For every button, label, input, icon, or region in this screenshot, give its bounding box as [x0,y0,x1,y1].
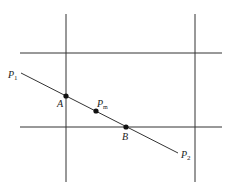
clipping-diagram: P1 A Pm B P2 [0,0,233,194]
label-p2: P2 [180,149,191,162]
label-p1: P1 [7,69,18,82]
label-a: A [56,98,64,109]
segment-p1-p2 [21,73,178,153]
label-b: B [122,131,128,142]
point-pm [93,108,98,113]
point-b [123,124,128,129]
point-a [63,93,68,98]
label-pm: Pm [96,98,108,110]
